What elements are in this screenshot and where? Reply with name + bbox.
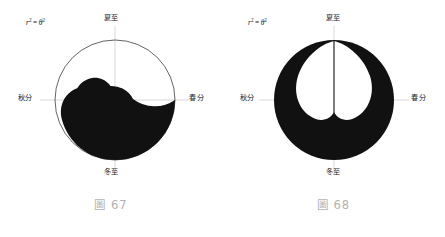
figure-68-caption: 圖 68 (222, 200, 445, 212)
equation-lhs-exponent: 2 (29, 17, 32, 23)
figure-68-label-left: 秋分 (240, 94, 255, 101)
equation-rhs-exponent: 2 (264, 17, 267, 23)
figure-67: r2=θ2 夏至 春分 冬至 秋分 圖 67 (0, 0, 222, 237)
equation-rhs-exponent: 2 (42, 17, 45, 23)
figure-68-label-right: 春分 (411, 94, 426, 101)
figure-67-plot: r2=θ2 夏至 春分 冬至 秋分 (0, 0, 222, 196)
figure-67-equation: r2=θ2 (26, 17, 45, 27)
figure-68-equation: r2=θ2 (248, 17, 267, 27)
equation-operator: = (33, 18, 37, 27)
equation-operator: = (255, 18, 259, 27)
figure-68-plot: r2=θ2 夏至 春分 冬至 秋分 (222, 0, 444, 196)
figure-67-label-bottom: 冬至 (104, 168, 119, 175)
equation-lhs-exponent: 2 (251, 17, 254, 23)
figure-67-label-left: 秋分 (18, 94, 33, 101)
figure-68-label-top: 夏至 (326, 14, 341, 21)
figure-67-label-top: 夏至 (104, 14, 119, 21)
figure-68-label-bottom: 冬至 (326, 168, 341, 175)
figure-67-label-right: 春分 (189, 94, 204, 101)
figure-67-caption: 圖 67 (0, 200, 222, 212)
figures-row: r2=θ2 夏至 春分 冬至 秋分 圖 67 (0, 0, 445, 237)
figure-68: r2=θ2 夏至 春分 冬至 秋分 圖 68 (222, 0, 445, 237)
